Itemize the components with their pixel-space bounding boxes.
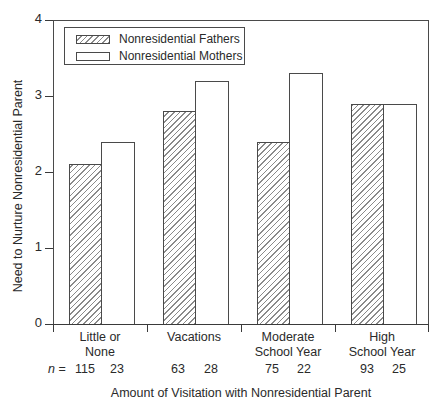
bar-little-or-none-fathers <box>69 164 103 324</box>
legend-item-fathers: Nonresidential Fathers <box>76 32 240 46</box>
category-label-line: School Year <box>335 345 429 360</box>
category-label-line: Vacations <box>147 330 241 345</box>
x-axis-line <box>45 324 429 325</box>
bar-high-school-year-fathers <box>351 104 385 324</box>
category-label-high-school-year: High School Year <box>335 330 429 360</box>
x-axis-title: Amount of Visitation with Nonresidential… <box>53 386 429 401</box>
legend-item-mothers: Nonresidential Mothers <box>76 49 242 63</box>
legend: Nonresidential Fathers Nonresidential Mo… <box>64 27 245 65</box>
n-value-little-fathers: 115 <box>69 362 101 376</box>
y-tick-label-4: 4 <box>30 12 42 26</box>
bar-moderate-school-year-mothers <box>289 73 323 324</box>
legend-label-mothers: Nonresidential Mothers <box>119 49 242 63</box>
open-swatch-icon <box>76 52 110 61</box>
bar-moderate-school-year-fathers <box>257 142 291 324</box>
legend-label-fathers: Nonresidential Fathers <box>119 32 240 46</box>
n-value-vacations-fathers: 63 <box>162 362 194 376</box>
n-value-moderate-mothers: 22 <box>288 362 320 376</box>
category-label-vacations: Vacations <box>147 330 241 345</box>
y-tick-1 <box>45 248 53 249</box>
bar-high-school-year-mothers <box>383 104 417 324</box>
category-label-line: Little or <box>53 330 147 345</box>
y-tick-4 <box>45 20 53 21</box>
y-tick-label-3: 3 <box>30 88 42 102</box>
y-tick-2 <box>45 172 53 173</box>
y-tick-label-2: 2 <box>30 164 42 178</box>
bar-vacations-fathers <box>163 111 197 324</box>
bar-little-or-none-mothers <box>101 142 135 324</box>
category-label-line: Moderate <box>241 330 335 345</box>
bar-chart: 0 1 2 3 4 Need to Nurture Nonresidential… <box>0 0 441 406</box>
category-label-little-or-none: Little or None <box>53 330 147 360</box>
n-symbol: n <box>48 362 55 376</box>
n-value-high-mothers: 25 <box>383 362 415 376</box>
n-value-high-fathers: 93 <box>351 362 383 376</box>
bar-vacations-mothers <box>195 81 229 324</box>
category-label-line: High <box>335 330 429 345</box>
n-value-vacations-mothers: 28 <box>195 362 227 376</box>
n-value-little-mothers: 23 <box>101 362 133 376</box>
y-tick-label-1: 1 <box>30 240 42 254</box>
y-tick-3 <box>45 96 53 97</box>
hatched-swatch-icon <box>76 35 110 44</box>
n-equals: = <box>55 362 66 376</box>
category-label-moderate-school-year: Moderate School Year <box>241 330 335 360</box>
n-value-moderate-fathers: 75 <box>256 362 288 376</box>
category-label-line: None <box>53 345 147 360</box>
n-prefix: n = <box>48 362 66 376</box>
y-axis-title: Need to Nurture Nonresidential Parent <box>11 80 26 293</box>
category-label-line: School Year <box>241 345 335 360</box>
y-tick-label-0: 0 <box>30 316 42 330</box>
